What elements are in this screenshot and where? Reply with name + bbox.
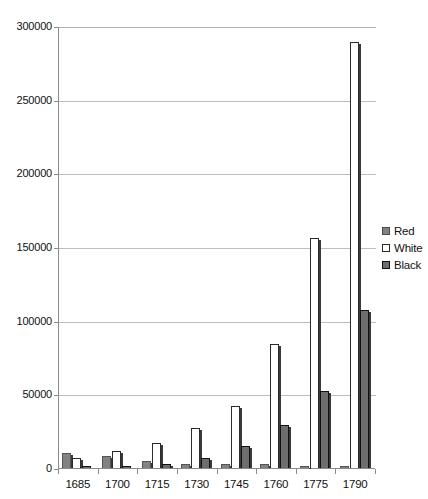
- x-axis-tick-label: 1730: [177, 478, 217, 490]
- x-axis-tick-label: 1685: [58, 478, 98, 490]
- x-axis-tick-label: 1760: [256, 478, 296, 490]
- bar-shadow: [250, 448, 252, 468]
- x-axis-tick-mark: [296, 469, 297, 474]
- y-axis-tick-label: 200000: [0, 167, 52, 179]
- y-axis-tick-label: 150000: [0, 241, 52, 253]
- x-axis-tick-mark: [335, 469, 336, 474]
- bar-black-1760[interactable]: [280, 425, 289, 468]
- bar-red-1715[interactable]: [142, 461, 151, 468]
- x-axis-tick-label: 1790: [335, 478, 375, 490]
- bar-white-1685[interactable]: [72, 458, 81, 468]
- x-axis-tick-mark: [256, 469, 257, 474]
- legend-item-label: White: [394, 242, 422, 254]
- bar-white-1700[interactable]: [112, 451, 121, 468]
- bar-red-1745[interactable]: [221, 464, 230, 468]
- y-axis-tick-label: 50000: [0, 388, 52, 400]
- bar-black-1715[interactable]: [162, 464, 171, 468]
- bar-white-1760[interactable]: [270, 344, 279, 468]
- plot-area: [58, 27, 375, 469]
- bar-shadow: [289, 427, 291, 468]
- bar-white-1745[interactable]: [231, 406, 240, 468]
- gridline: [59, 27, 376, 28]
- gridline: [59, 174, 376, 175]
- bar-red-1685[interactable]: [62, 453, 71, 468]
- bar-chart: 050000100000150000200000250000300000 168…: [0, 0, 428, 499]
- bar-black-1745[interactable]: [241, 446, 250, 468]
- bar-white-1790[interactable]: [350, 42, 359, 468]
- bar-white-1730[interactable]: [191, 428, 200, 468]
- x-axis-tick-label: 1700: [98, 478, 138, 490]
- x-axis-tick-mark: [137, 469, 138, 474]
- x-axis-tick-label: 1745: [217, 478, 257, 490]
- legend-swatch-red-icon: [382, 227, 390, 235]
- bar-red-1760[interactable]: [260, 464, 269, 468]
- gridline: [59, 322, 376, 323]
- y-axis-tick-label: 300000: [0, 20, 52, 32]
- legend-item-red[interactable]: Red: [382, 222, 428, 239]
- bar-black-1790[interactable]: [360, 310, 369, 468]
- chart-legend: RedWhiteBlack: [382, 222, 428, 273]
- bar-shadow: [171, 466, 173, 468]
- bar-shadow: [329, 393, 331, 468]
- gridline: [59, 248, 376, 249]
- bar-black-1700[interactable]: [122, 466, 131, 468]
- gridline: [59, 101, 376, 102]
- legend-swatch-white-icon: [382, 244, 390, 252]
- legend-item-white[interactable]: White: [382, 239, 428, 256]
- legend-swatch-black-icon: [382, 261, 390, 269]
- legend-item-label: Red: [394, 225, 415, 237]
- x-axis-tick-label: 1775: [296, 478, 336, 490]
- y-axis-tick-label: 100000: [0, 315, 52, 327]
- x-axis-tick-mark: [177, 469, 178, 474]
- y-axis-tick-label: 250000: [0, 94, 52, 106]
- bar-black-1685[interactable]: [82, 466, 91, 468]
- bar-black-1775[interactable]: [320, 391, 329, 468]
- x-axis-tick-mark: [375, 469, 376, 474]
- bar-white-1715[interactable]: [152, 443, 161, 468]
- x-axis-tick-mark: [217, 469, 218, 474]
- legend-item-label: Black: [394, 259, 421, 271]
- x-axis-tick-mark: [98, 469, 99, 474]
- bar-red-1775[interactable]: [300, 466, 309, 468]
- bar-black-1730[interactable]: [201, 458, 210, 468]
- legend-item-black[interactable]: Black: [382, 256, 428, 273]
- bar-shadow: [369, 312, 371, 468]
- bar-red-1730[interactable]: [181, 464, 190, 468]
- x-axis-tick-mark: [58, 469, 59, 474]
- bar-shadow: [210, 460, 212, 468]
- bar-red-1790[interactable]: [340, 466, 349, 468]
- bar-red-1700[interactable]: [102, 456, 111, 468]
- x-axis-tick-label: 1715: [137, 478, 177, 490]
- y-axis-tick-label: 0: [0, 462, 52, 474]
- bar-white-1775[interactable]: [310, 238, 319, 468]
